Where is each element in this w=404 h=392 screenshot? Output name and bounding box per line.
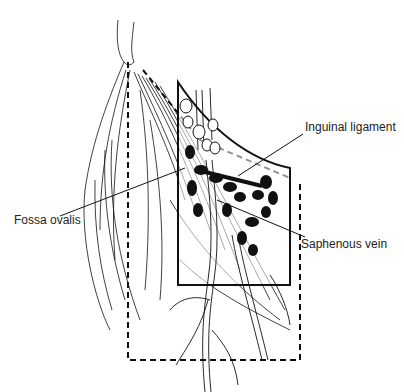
leader-fossa-ovalis xyxy=(60,168,185,216)
anatomy-figure: Inguinal ligament Fossa ovalis Saphenous… xyxy=(0,0,404,392)
label-fossa-ovalis: Fossa ovalis xyxy=(14,213,81,227)
label-inguinal-ligament: Inguinal ligament xyxy=(305,120,396,134)
label-saphenous-vein: Saphenous vein xyxy=(301,237,387,251)
thigh-illustration xyxy=(0,0,404,392)
